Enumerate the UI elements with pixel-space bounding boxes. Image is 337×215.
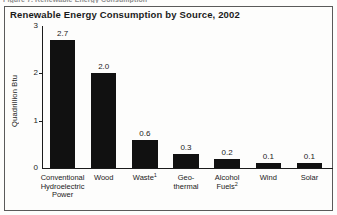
bar [173,154,199,168]
cut-off-caption-sliver: Figure 7. Renewable Energy Consumption [3,0,333,3]
x-category-label: Solar [285,174,334,183]
chart-title: Renewable Energy Consumption by Source, … [10,9,240,20]
x-axis-line [42,168,333,169]
bar [256,163,282,168]
bar [50,40,76,168]
y-tick-label: 0 [26,164,38,172]
bar [297,163,323,168]
bar [214,159,240,168]
y-tick-label: 3 [26,22,38,30]
bar-value-label: 2.7 [42,29,83,38]
plot-area: 2.72.00.60.30.20.10.1 [42,26,330,168]
bar-value-label: 0.1 [248,152,289,161]
y-tick-mark [39,121,42,122]
figure-root: Figure 7. Renewable Energy Consumption R… [0,0,337,215]
y-axis-title: Quadrillion Btu [10,56,22,146]
bar [91,73,117,168]
bar-value-label: 0.2 [207,148,248,157]
y-tick-mark [39,73,42,74]
bar-value-label: 2.0 [83,62,124,71]
y-tick-label: 1 [26,117,38,125]
bar-value-label: 0.3 [165,143,206,152]
bar-value-label: 0.1 [289,152,330,161]
y-tick-label: 2 [26,69,38,77]
bar-value-label: 0.6 [124,129,165,138]
bar [132,140,158,168]
